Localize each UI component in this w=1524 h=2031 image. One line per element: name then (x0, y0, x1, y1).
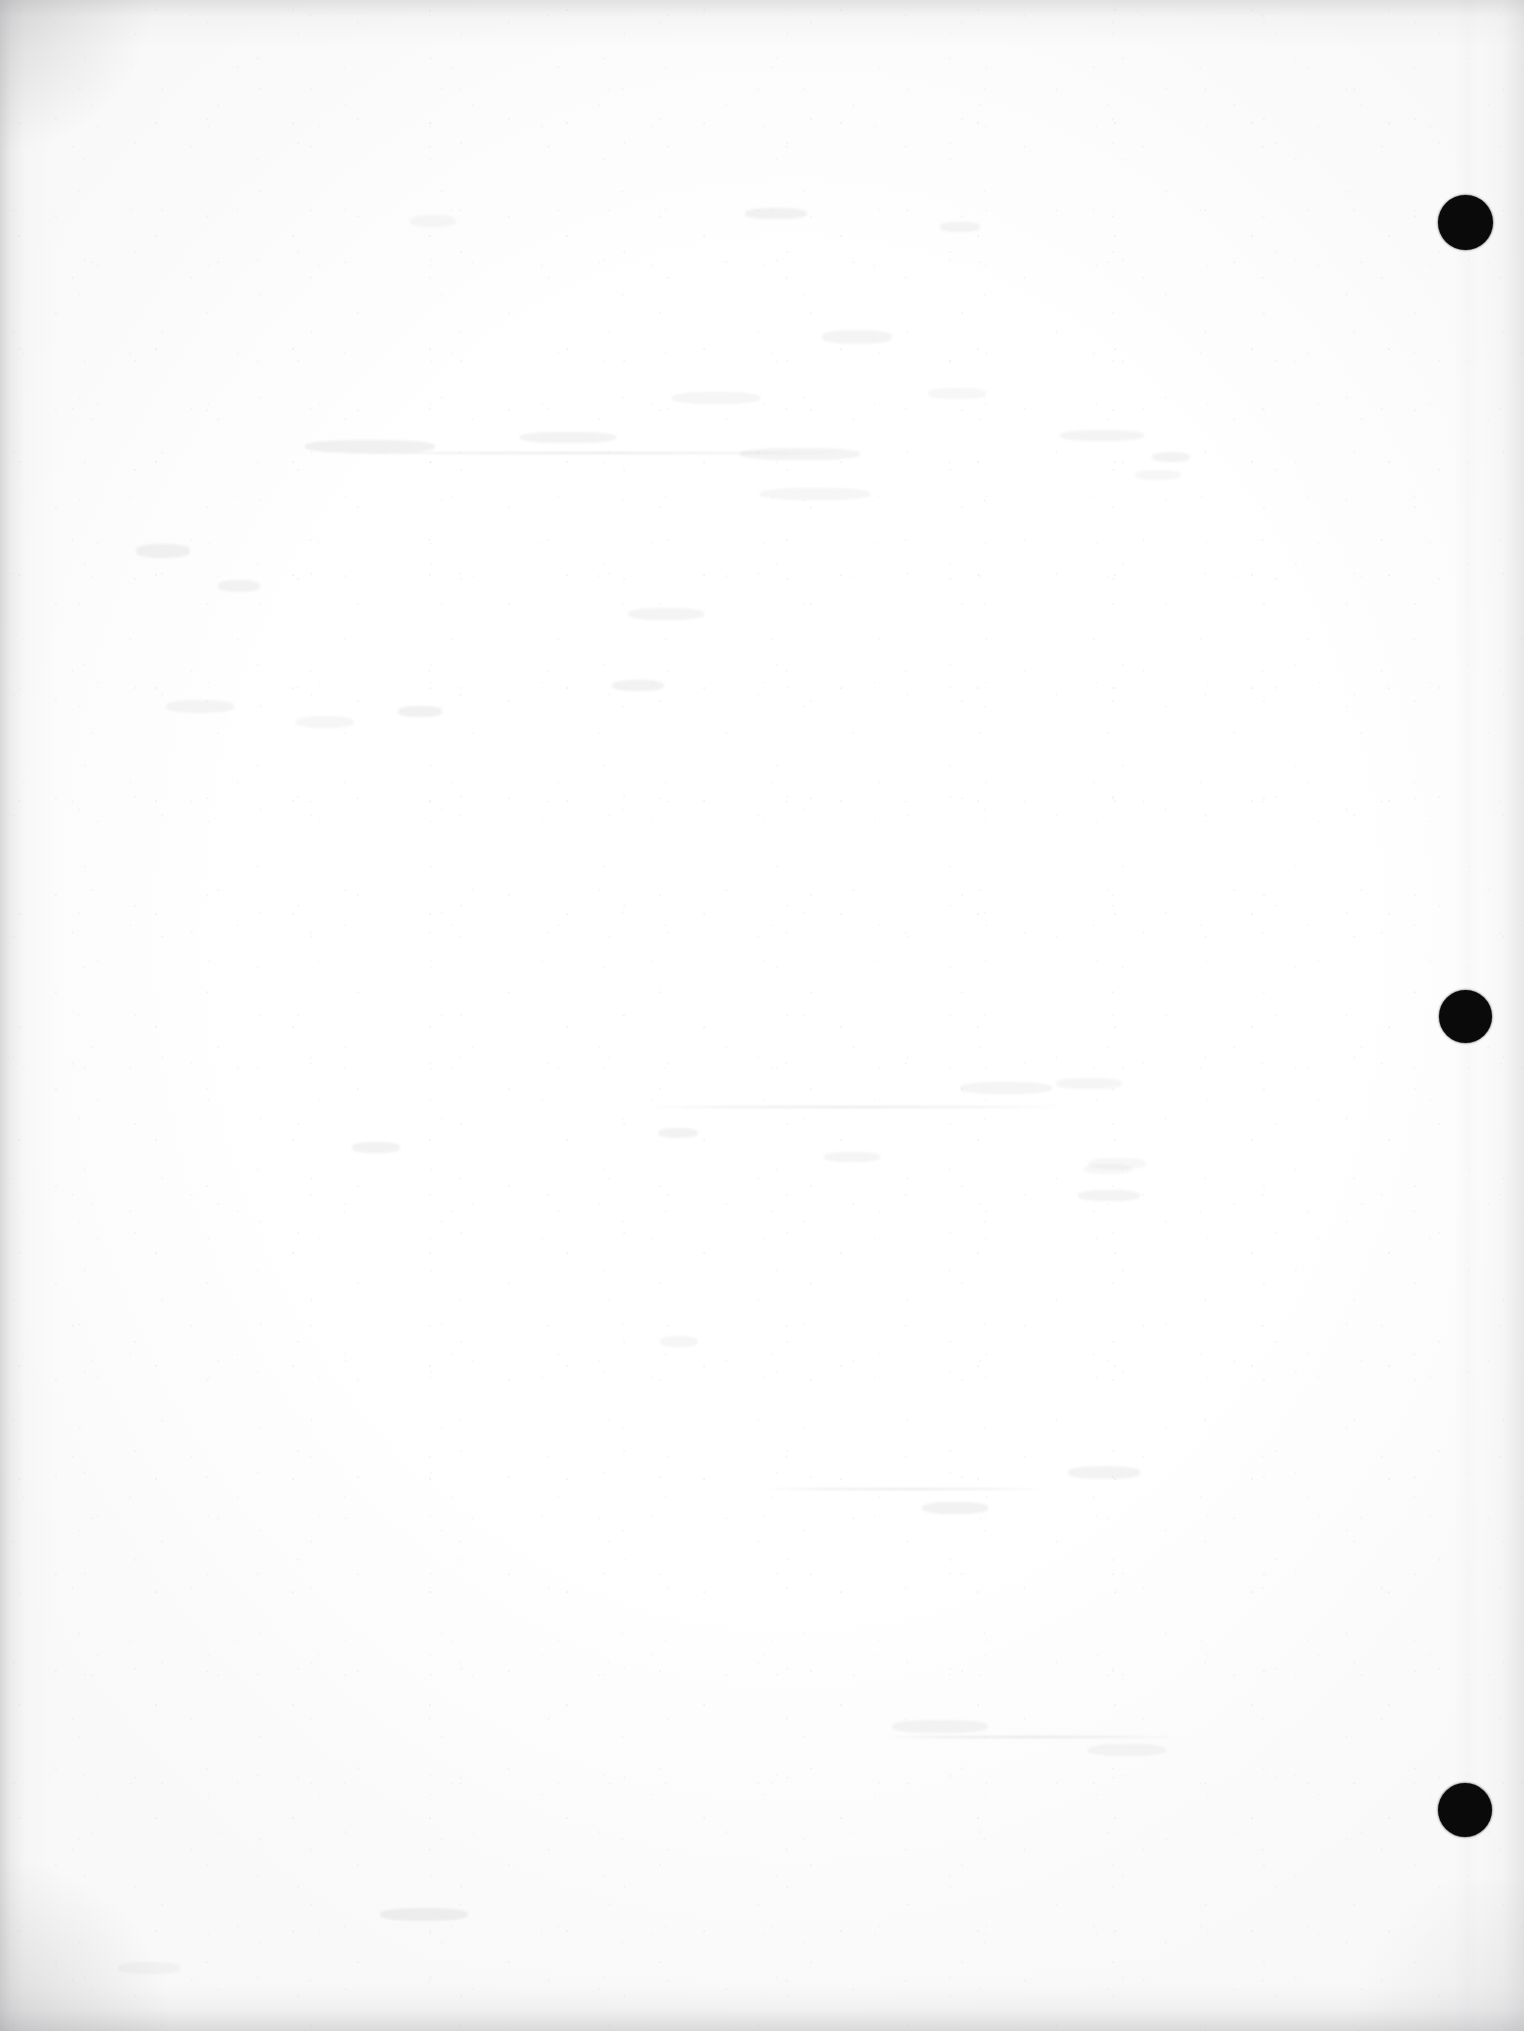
punch-hole-top (1438, 195, 1493, 250)
scanned-page (0, 0, 1524, 2031)
punch-hole-middle (1439, 990, 1492, 1043)
page-body-text (120, 120, 1360, 1900)
punch-hole-bottom (1438, 1783, 1492, 1837)
